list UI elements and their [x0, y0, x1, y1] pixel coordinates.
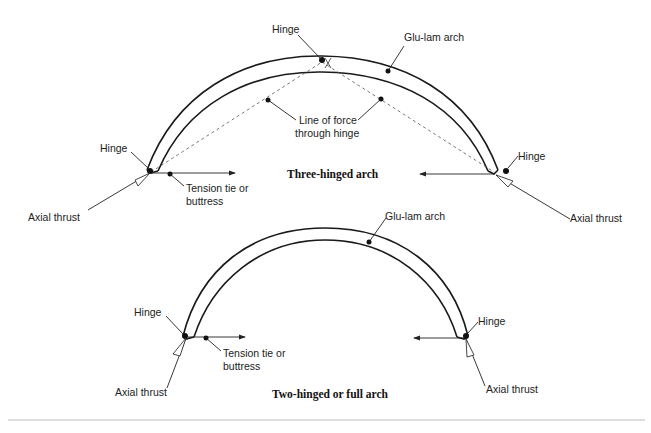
title-three-hinged: Three-hinged arch [287, 168, 379, 181]
label-axial-thrust-right: Axial thrust [570, 212, 622, 224]
label-axial-thrust-left-2: Axial thrust [115, 386, 167, 398]
thrust-arrow-right-2-icon [466, 339, 474, 357]
label-glulam-top: Glu-lam arch [404, 31, 464, 43]
two-hinged-arch-inner [194, 240, 457, 337]
label-buttress-left: buttress [186, 195, 223, 207]
label-hinge-left: Hinge [100, 142, 128, 154]
thrust-arrow-left-2-icon [173, 338, 186, 356]
label-axial-thrust-right-2: Axial thrust [486, 383, 538, 395]
three-hinged-arch: Hinge Glu-lam arch Line of force through… [28, 23, 622, 224]
label-hinge-left-2: Hinge [134, 306, 162, 318]
thrust-arrow-right-icon [496, 175, 513, 187]
label-hinge-top: Hinge [272, 23, 300, 35]
right-hinge-dot [503, 168, 509, 174]
label-through-hinge: through hinge [295, 127, 359, 139]
label-hinge-right-2: Hinge [478, 315, 506, 327]
label-tension-tie-left-2: Tension tie or [223, 347, 286, 359]
label-buttress-left-2: buttress [223, 360, 260, 372]
title-two-hinged: Two-hinged or full arch [272, 388, 389, 401]
top-hinge-cross-icon [325, 58, 331, 68]
label-glulam-bottom: Glu-lam arch [385, 210, 445, 222]
two-hinged-arch: Glu-lam arch Hinge Tension tie or buttre… [115, 210, 538, 401]
arch-diagram: Hinge Glu-lam arch Line of force through… [0, 0, 651, 433]
thrust-arrow-left-icon [135, 173, 150, 186]
label-tension-tie-left: Tension tie or [186, 182, 249, 194]
label-hinge-right: Hinge [518, 150, 546, 162]
label-line-of-force: Line of force [299, 114, 357, 126]
right-foot [488, 170, 498, 174]
label-axial-thrust-left: Axial thrust [28, 211, 80, 223]
